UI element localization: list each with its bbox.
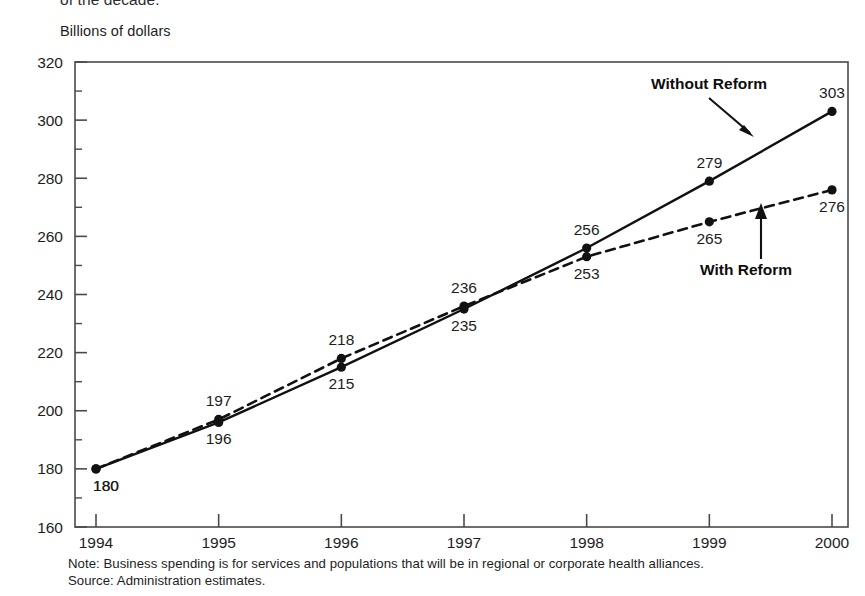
y-tick-label: 260 [37,228,63,245]
y-tick-label: 280 [37,170,63,187]
data-point-marker [337,354,346,363]
data-point-marker [827,107,836,116]
x-axis-ticks [96,514,832,527]
x-axis-tick-labels: 1994199519961997199819992000 [79,534,850,551]
x-tick-label: 1996 [324,534,358,551]
data-point-marker [582,252,591,261]
data-point-marker [214,415,223,424]
x-tick-label: 2000 [815,534,850,551]
data-point-label: 253 [574,265,600,282]
data-point-label: 303 [819,84,845,101]
x-tick-label: 1999 [692,534,726,551]
with-reform-label: With Reform [700,261,792,278]
data-point-label: 218 [328,331,354,348]
without-reform-label: Without Reform [651,75,767,92]
footnote-source: Source: Administration estimates. [68,573,704,590]
y-axis-ticks [75,62,87,527]
y-tick-label: 220 [37,344,63,361]
series-point-labels: 1801962152352562793031801972182362532652… [93,84,845,493]
data-point-marker [91,464,100,473]
y-tick-label: 300 [37,112,63,129]
x-tick-label: 1995 [201,534,235,551]
data-point-label: 279 [696,154,722,171]
x-tick-label: 1998 [569,534,603,551]
data-point-marker [337,363,346,372]
y-tick-label: 200 [37,402,63,419]
data-point-marker [705,177,714,186]
data-point-label: 236 [451,279,477,296]
data-point-label: 196 [206,430,232,447]
y-tick-label: 160 [37,519,63,536]
data-point-marker [459,302,468,311]
data-point-marker [582,243,591,252]
data-point-label: 197 [206,392,232,409]
line-chart: 160180200220240260280300320 199419951996… [0,0,865,596]
x-tick-label: 1994 [79,534,114,551]
data-point-marker [827,185,836,194]
data-point-label: 256 [574,221,600,238]
data-point-label: 180 [93,477,119,494]
data-point-marker [705,217,714,226]
y-tick-label: 180 [37,460,63,477]
footnotes: Note: Business spending is for services … [68,556,704,589]
footnote-note: Note: Business spending is for services … [68,556,704,573]
y-tick-label: 240 [37,286,63,303]
without-reform-annotation: Without Reform [651,75,767,137]
y-axis-tick-labels: 160180200220240260280300320 [37,54,63,536]
data-point-label: 265 [696,230,722,247]
data-point-label: 276 [819,198,845,215]
data-point-label: 215 [328,375,354,392]
with-reform-arrow-head [755,203,767,219]
x-tick-label: 1997 [447,534,481,551]
data-point-label: 235 [451,317,477,334]
y-tick-label: 320 [37,54,63,71]
